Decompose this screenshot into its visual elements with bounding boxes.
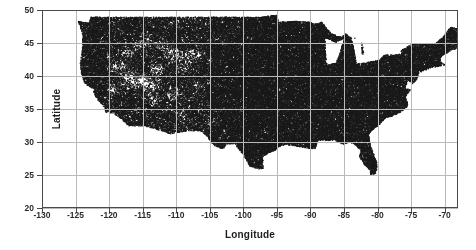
x-tick-label: -105: [201, 210, 218, 220]
y-tick-label: 25: [25, 170, 34, 180]
y-tick: [37, 208, 42, 209]
plot-area: [42, 10, 458, 208]
y-tick: [37, 142, 42, 143]
plot-frame: [42, 10, 458, 208]
x-axis-title: Longitude: [42, 229, 458, 240]
y-tick: [37, 175, 42, 176]
y-tick-label: 45: [25, 38, 34, 48]
x-tick-label: -75: [405, 210, 417, 220]
x-tick-label: -90: [304, 210, 316, 220]
y-tick: [37, 109, 42, 110]
y-tick-label: 20: [25, 203, 34, 213]
y-axis-title: Latitude: [51, 64, 62, 154]
y-tick-label: 50: [25, 5, 34, 15]
y-tick-label: 40: [25, 71, 34, 81]
x-tick-label: -85: [338, 210, 350, 220]
chart-figure: -130-125-120-115-110-105-100-95-90-85-80…: [0, 0, 476, 250]
x-tick-label: -70: [438, 210, 450, 220]
x-tick-label: -130: [33, 210, 50, 220]
y-tick-label: 30: [25, 137, 34, 147]
y-tick: [37, 76, 42, 77]
x-tick-label: -110: [168, 210, 185, 220]
x-tick-label: -95: [271, 210, 283, 220]
x-tick-label: -100: [235, 210, 252, 220]
y-tick: [37, 10, 42, 11]
grid-line-horizontal: [42, 208, 458, 209]
x-tick-label: -125: [67, 210, 84, 220]
x-tick-label: -120: [101, 210, 118, 220]
y-tick-label: 35: [25, 104, 34, 114]
x-tick-label: -115: [134, 210, 151, 220]
y-tick: [37, 43, 42, 44]
x-tick-label: -80: [371, 210, 383, 220]
